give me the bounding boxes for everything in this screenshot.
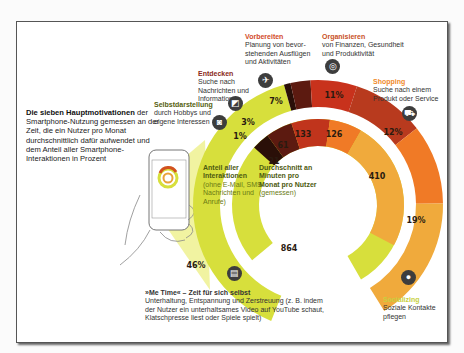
intro-title: Die sieben Hauptmotivationen <box>26 108 135 117</box>
outer-label-organisieren: 11% <box>324 91 343 100</box>
outer-ring-legend: Anteil aller Interaktionen (ohne E-Mail,… <box>203 164 265 206</box>
inner-label-entdecken: 61 <box>277 141 289 150</box>
outer-ring-title: Anteil aller Interaktionen <box>203 164 265 181</box>
outer-label-vorbereiten: 7% <box>269 97 283 106</box>
label-vorbereiten: Vorbereiten Planung von bevor-stehenden … <box>245 33 313 67</box>
chat-bubble-icon: ● <box>401 270 416 285</box>
stopwatch-icon: ◎ <box>325 59 340 74</box>
label-organisieren: Organisieren von Finanzen, Gesundheit un… <box>322 33 404 58</box>
inner-segment-shopping <box>348 131 405 246</box>
intro-description: der Smartphone-Nutzung gemessen an der Z… <box>26 108 159 163</box>
inner-ring-legend: Durchschnitt an Minuten pro Monat pro Nu… <box>259 164 317 198</box>
label-metime: »Me Time« – Zeit für sich selbst Unterha… <box>145 289 325 323</box>
inner-ring-note: (gemessen) <box>259 189 296 196</box>
outer-label-entdecken: 3% <box>241 118 255 127</box>
outer-label-metime: 46% <box>186 261 205 270</box>
camera-icon: ◙ <box>212 115 227 130</box>
label-selbstdarstellung: Selbstdarstellung durch Hobbys und eigen… <box>154 101 216 126</box>
inner-label-shopping: 410 <box>369 172 386 181</box>
inner-label-vorbereiten: 133 <box>295 130 312 139</box>
outer-label-selbst: 1% <box>233 132 247 141</box>
newspaper-icon: ◩ <box>228 96 243 111</box>
label-socializing: Socializing Soziale Kontakte pflegen <box>383 296 445 321</box>
inner-label-organisieren: 126 <box>326 130 343 139</box>
outer-label-socializing: 19% <box>406 216 425 225</box>
outer-ring-note: (ohne E-Mail, SMS-Nachrichten und Anrufe… <box>203 181 264 205</box>
inner-ring-title: Durchschnitt an Minuten pro Monat pro Nu… <box>259 164 317 189</box>
intro-text: Die sieben Hauptmotivationen der Smartph… <box>26 108 161 163</box>
film-icon: ▤ <box>227 266 242 281</box>
outer-label-shopping: 12% <box>383 128 402 137</box>
inner-label-metime: 864 <box>281 244 298 253</box>
label-shopping: Shopping Suche nach einem Produkt oder S… <box>373 78 443 103</box>
airplane-icon: ✈ <box>258 73 273 88</box>
cart-icon: ⛟ <box>402 106 417 121</box>
